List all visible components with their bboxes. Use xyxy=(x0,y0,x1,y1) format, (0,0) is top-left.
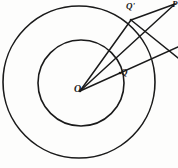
point-marker-qp xyxy=(130,19,133,22)
figure-canvas xyxy=(0,0,178,168)
label-point-o: O xyxy=(74,84,81,94)
segment-qprime-to-lowerright xyxy=(131,20,178,58)
inner-circle xyxy=(38,40,124,126)
segment-o-to-q-extended xyxy=(80,47,178,91)
segment-qprime-to-p xyxy=(131,4,175,20)
label-point-p: P xyxy=(172,0,178,9)
geometry-figure: O Q Q' P xyxy=(0,0,178,168)
outer-circle xyxy=(3,6,155,158)
label-point-q-prime: Q' xyxy=(126,2,135,11)
label-point-q: Q xyxy=(121,68,128,77)
segment-o-to-p xyxy=(80,4,175,91)
